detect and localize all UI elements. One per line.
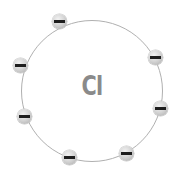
minus-charge-icon	[150, 56, 161, 59]
electron	[119, 146, 134, 161]
minus-charge-icon	[19, 115, 30, 118]
minus-charge-icon	[121, 152, 132, 155]
nucleus-label: Cl	[76, 71, 108, 101]
minus-charge-icon	[64, 156, 75, 159]
electron	[52, 14, 67, 29]
electron	[17, 109, 32, 124]
minus-charge-icon	[54, 20, 65, 23]
minus-charge-icon	[155, 107, 166, 110]
electron	[153, 101, 168, 116]
electron	[13, 58, 28, 73]
minus-charge-icon	[15, 64, 26, 67]
electron	[62, 150, 77, 165]
electron	[148, 50, 163, 65]
